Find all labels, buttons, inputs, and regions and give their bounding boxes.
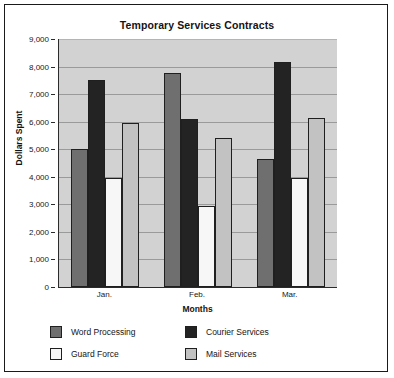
y-tick-mark — [51, 94, 55, 95]
bar — [274, 62, 291, 287]
legend-label: Mail Services — [206, 349, 257, 359]
legend-label: Guard Force — [71, 349, 119, 359]
legend-item[interactable]: Mail Services — [185, 347, 257, 361]
y-tick-mark — [51, 122, 55, 123]
y-tick-label: 9,000 — [29, 35, 49, 44]
bar — [308, 118, 325, 287]
y-tick-label: 5,000 — [29, 145, 49, 154]
x-axis-labels: Jan.Feb.Mar. — [58, 290, 337, 304]
x-tick-label: Jan. — [97, 290, 112, 299]
bar — [164, 73, 181, 287]
bar — [257, 159, 274, 287]
bar — [88, 80, 105, 287]
x-tick-label: Feb. — [189, 290, 205, 299]
bar — [71, 149, 88, 287]
chart-title: Temporary Services Contracts — [5, 19, 389, 31]
y-tick-label: 1,000 — [29, 255, 49, 264]
legend-item[interactable]: Guard Force — [50, 347, 119, 361]
y-tick-mark — [51, 177, 55, 178]
gridline — [59, 39, 337, 40]
plot-area — [58, 39, 337, 288]
y-tick-label: 3,000 — [29, 200, 49, 209]
bar — [181, 119, 198, 287]
y-tick-mark — [51, 259, 55, 260]
y-axis-labels: 01,0002,0003,0004,0005,0006,0007,0008,00… — [5, 39, 55, 287]
y-tick-label: 2,000 — [29, 227, 49, 236]
bar — [291, 178, 308, 287]
y-tick-label: 7,000 — [29, 90, 49, 99]
legend-swatch-icon — [185, 326, 197, 338]
legend-label: Courier Services — [206, 327, 269, 337]
y-tick-label: 0 — [45, 283, 49, 292]
x-axis-title: Months — [58, 304, 337, 314]
legend-swatch-icon — [50, 348, 62, 360]
y-tick-mark — [51, 149, 55, 150]
y-tick-mark — [51, 39, 55, 40]
chart-legend: Word ProcessingCourier ServicesGuard For… — [50, 325, 350, 367]
legend-item[interactable]: Word Processing — [50, 325, 136, 339]
bar — [105, 178, 122, 287]
chart-frame: Temporary Services Contracts Dollars Spe… — [4, 4, 388, 372]
y-tick-mark — [51, 67, 55, 68]
x-tick-label: Mar. — [282, 290, 298, 299]
y-tick-mark — [51, 204, 55, 205]
bar — [198, 206, 215, 287]
bar — [215, 138, 232, 287]
y-tick-label: 6,000 — [29, 117, 49, 126]
legend-item[interactable]: Courier Services — [185, 325, 269, 339]
y-tick-mark — [51, 287, 55, 288]
legend-swatch-icon — [50, 326, 62, 338]
gridline — [59, 67, 337, 68]
legend-label: Word Processing — [71, 327, 136, 337]
bar — [122, 123, 139, 287]
legend-swatch-icon — [185, 348, 197, 360]
y-tick-label: 8,000 — [29, 62, 49, 71]
y-tick-mark — [51, 232, 55, 233]
y-tick-label: 4,000 — [29, 172, 49, 181]
